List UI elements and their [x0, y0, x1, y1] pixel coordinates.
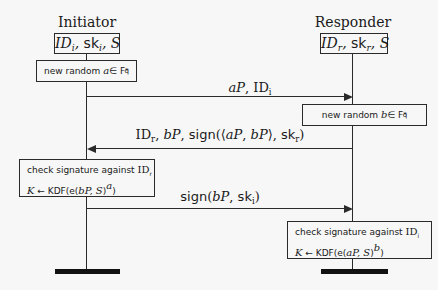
close-paren: )	[112, 186, 116, 196]
kdf-line: K ← KDF(e(bP, S)a)	[27, 180, 147, 197]
id-term: ID	[406, 226, 418, 237]
separator: ,	[229, 189, 237, 204]
arrowhead-right-icon	[344, 205, 353, 213]
field-symbol: ∈ F	[387, 109, 403, 121]
initiator-lifeline-end	[55, 269, 120, 274]
s-symbol: S	[111, 35, 121, 51]
id-subscript: i	[417, 233, 419, 239]
responder-lifeline-end	[321, 269, 388, 274]
close-bracket: ⟩,	[268, 127, 281, 142]
sk-symbol: sk	[84, 35, 99, 51]
assign-arrow: ←	[302, 248, 315, 258]
field-symbol: ∈ F	[109, 65, 125, 77]
ap-term: aP	[226, 127, 243, 142]
kdf-line: K ← KDF(e(aP, S)b)	[295, 242, 424, 259]
message-3-label: sign(bP, ski)	[170, 189, 270, 206]
id-symbol: ID	[55, 35, 72, 51]
id-term: ID	[253, 80, 269, 95]
responder-title: Responder	[303, 14, 403, 30]
open-bracket: (⟨	[216, 127, 226, 142]
bp-term: bP	[251, 127, 268, 142]
action-text: new random	[322, 109, 378, 121]
field-subscript: q	[125, 65, 129, 77]
sk-symbol: sk	[351, 35, 366, 51]
responder-keys-box: IDr, skr, S	[320, 33, 388, 54]
close-paren: )	[380, 248, 384, 258]
check-text: check signature against	[295, 227, 406, 237]
arrowhead-right-icon	[344, 93, 353, 101]
message-2-label: IDr, bP, sign(⟨aP, bP⟩, skr)	[120, 127, 320, 144]
separator: ,	[242, 127, 250, 142]
initiator-title: Initiator	[37, 14, 137, 30]
id-symbol: ID	[321, 35, 338, 51]
bp-term: bP	[163, 127, 180, 142]
pairing-args: bP, S	[78, 185, 102, 196]
initiator-random-box: new random a ∈ F*q	[36, 60, 137, 82]
id-subscript: i	[72, 43, 75, 53]
initiator-check-box: check signature against IDr K ← KDF(e(bP…	[19, 159, 155, 197]
arrowhead-left-icon	[87, 145, 96, 153]
sk-term: sk	[281, 127, 295, 142]
field-subscript: q	[403, 109, 407, 121]
pairing-args: aP, S	[346, 247, 370, 258]
action-text: new random	[44, 65, 100, 77]
separator: ,	[181, 127, 189, 142]
sign-function: sign	[180, 189, 207, 204]
ap-term: aP	[228, 80, 245, 95]
close-paren: )	[255, 189, 260, 204]
responder-random-box: new random b ∈ F*q	[302, 104, 427, 126]
close-paren: )	[299, 127, 304, 142]
s-symbol: S	[380, 35, 390, 51]
sk-subscript: r	[366, 43, 370, 53]
separator: ,	[245, 80, 253, 95]
bp-term: bP	[212, 189, 229, 204]
id-term: ID	[138, 164, 150, 175]
id-subscript: r	[149, 171, 151, 177]
message-3-arrow	[87, 208, 345, 209]
kdf-function: KDF(e(	[316, 248, 347, 258]
sk-subscript: i	[99, 43, 102, 53]
check-text: check signature against	[27, 165, 138, 175]
check-line: check signature against IDr	[27, 164, 147, 180]
message-1-arrow	[87, 96, 345, 97]
sign-function: sign	[189, 127, 216, 142]
id-subscript: r	[338, 43, 342, 53]
message-2-arrow	[95, 148, 353, 149]
sk-term: sk	[238, 189, 252, 204]
initiator-keys-box: IDi, ski, S	[54, 33, 120, 54]
kdf-function: KDF(e(	[48, 186, 79, 196]
check-line: check signature against IDi	[295, 226, 424, 242]
assign-arrow: ←	[34, 186, 47, 196]
responder-check-box: check signature against IDi K ← KDF(e(aP…	[287, 221, 432, 259]
message-1-label: aP, IDi	[200, 80, 300, 97]
id-term: ID	[136, 127, 152, 142]
